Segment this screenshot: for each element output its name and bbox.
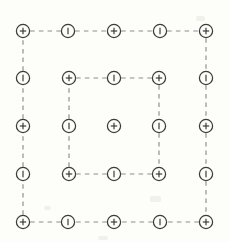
paper-speck bbox=[44, 206, 51, 210]
outer-node-bottom-1 bbox=[61, 215, 74, 228]
outer-node-top-1 bbox=[61, 24, 74, 37]
outer-node-top-right bbox=[199, 24, 212, 37]
inner-node-bottom-mid bbox=[107, 167, 120, 180]
inner-node-right-mid bbox=[152, 119, 165, 132]
outer-node-bottom-2 bbox=[153, 215, 166, 228]
inner-node-bottom-left bbox=[62, 167, 75, 180]
outer-node-bottom-mid bbox=[107, 215, 120, 228]
outer-node-right-2 bbox=[199, 167, 212, 180]
outer-node-right-mid bbox=[199, 119, 212, 132]
outer-node-left-2 bbox=[16, 167, 29, 180]
outer-node-top-left bbox=[16, 24, 29, 37]
outer-node-right-1 bbox=[199, 71, 212, 84]
outer-node-bottom-left bbox=[16, 215, 29, 228]
outer-node-top-2 bbox=[153, 24, 166, 37]
paper-speck bbox=[196, 16, 205, 21]
inner-node-bottom-right bbox=[152, 167, 165, 180]
inner-node-top-left bbox=[62, 71, 75, 84]
lattice-diagram: Concentric square arrays of circular cur… bbox=[0, 0, 229, 242]
outer-node-left-mid bbox=[16, 119, 29, 132]
nodes-layer bbox=[16, 24, 212, 228]
inner-node-top-mid bbox=[107, 71, 120, 84]
center-node bbox=[107, 119, 120, 132]
outer-node-bottom-right bbox=[199, 215, 212, 228]
outer-node-left-1 bbox=[16, 71, 29, 84]
inner-node-top-right bbox=[152, 71, 165, 84]
outer-node-top-mid bbox=[107, 24, 120, 37]
paper-speck bbox=[150, 196, 161, 202]
inner-node-left-mid bbox=[62, 119, 75, 132]
diagram-canvas: Concentric square arrays of circular cur… bbox=[0, 0, 229, 242]
paper-speck bbox=[98, 236, 108, 240]
